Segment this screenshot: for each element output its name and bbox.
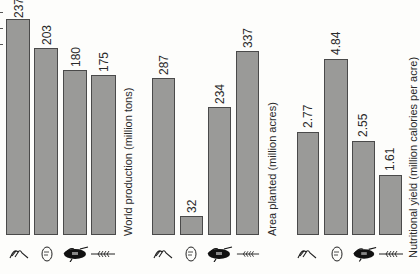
bar-rice (297, 132, 319, 235)
potato-icon (40, 246, 54, 262)
bar-wheat (379, 175, 402, 235)
value-label: 180 (70, 47, 82, 67)
axis-label: Area planted (million acres) (266, 102, 278, 236)
wheat-icon (378, 246, 404, 262)
potato-icon (184, 246, 198, 262)
bar-wheat (236, 51, 259, 235)
bar-potato (324, 59, 348, 235)
value-label: 175 (98, 52, 110, 72)
rice-icon (8, 246, 30, 262)
chart-world-production: 237 203 180 175 World production (millio… (0, 0, 140, 274)
potato-icon (330, 246, 344, 262)
value-label: 287 (158, 55, 170, 75)
bar-potato (180, 216, 203, 235)
rice-icon (296, 246, 318, 262)
axis-label: World production (million tons) (122, 88, 134, 236)
bar-corn (352, 141, 375, 235)
bar-rice (152, 78, 175, 235)
rice-icon (152, 246, 174, 262)
value-label: 4.84 (330, 32, 342, 55)
value-label: 32 (186, 200, 198, 213)
bar-corn (208, 107, 231, 235)
bar-potato (34, 48, 58, 235)
value-label: 1.61 (384, 148, 396, 171)
bar-corn (63, 70, 87, 235)
chart-nutritional-yield: 2.77 4.84 2.55 1.61 Nutritional yield (m… (280, 0, 420, 274)
value-label: 234 (214, 84, 226, 104)
axis-label: Nutritional yield (million calories per … (407, 57, 419, 258)
bar-wheat (91, 75, 116, 235)
value-label: 203 (41, 25, 53, 45)
value-label: 2.55 (357, 114, 369, 137)
value-label: 237 (13, 0, 25, 18)
corn-icon (60, 246, 90, 262)
bar-rice (6, 19, 30, 235)
chart-area-planted: 287 32 234 337 Area planted (million acr… (140, 0, 280, 274)
value-label: 2.77 (302, 105, 314, 128)
value-label: 337 (242, 28, 254, 48)
wheat-icon (236, 246, 260, 262)
corn-icon (350, 246, 378, 262)
wheat-icon (90, 246, 116, 262)
corn-icon (204, 246, 234, 262)
